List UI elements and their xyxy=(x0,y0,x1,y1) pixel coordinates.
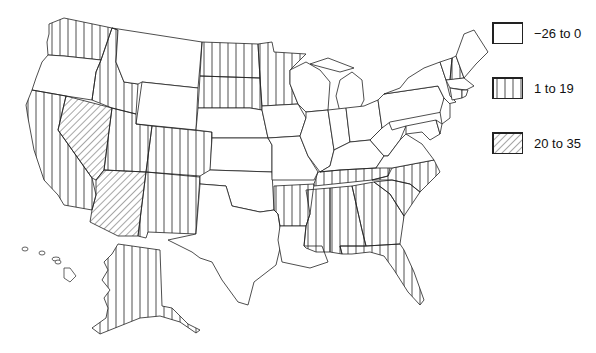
state-nm xyxy=(138,172,200,238)
vertical-hatch-swatch-icon xyxy=(492,77,523,99)
legend: −26 to 0 1 to 19 20 to 35 xyxy=(492,22,596,187)
legend-item-negative: −26 to 0 xyxy=(492,22,596,44)
legend-item-low: 1 to 19 xyxy=(492,77,596,99)
legend-label: 1 to 19 xyxy=(534,81,574,96)
state-wa xyxy=(47,18,112,60)
state-hi xyxy=(22,247,76,282)
state-iowa xyxy=(262,104,306,138)
state-ks xyxy=(210,138,272,172)
legend-label: 20 to 35 xyxy=(534,136,581,151)
blank-swatch-icon xyxy=(492,22,523,44)
state-co xyxy=(146,126,212,178)
state-ct xyxy=(450,88,462,100)
state-sd xyxy=(198,76,262,110)
state-ak xyxy=(92,244,200,334)
state-nd xyxy=(200,42,260,78)
state-mt xyxy=(112,28,202,88)
state-ri xyxy=(462,90,468,98)
state-wy xyxy=(136,82,198,130)
state-az xyxy=(90,170,146,236)
diagonal-hatch-swatch-icon xyxy=(492,132,523,154)
state-ms xyxy=(304,188,330,252)
legend-label: −26 to 0 xyxy=(534,26,581,41)
state-fl xyxy=(340,244,424,305)
legend-item-high: 20 to 35 xyxy=(492,132,596,154)
